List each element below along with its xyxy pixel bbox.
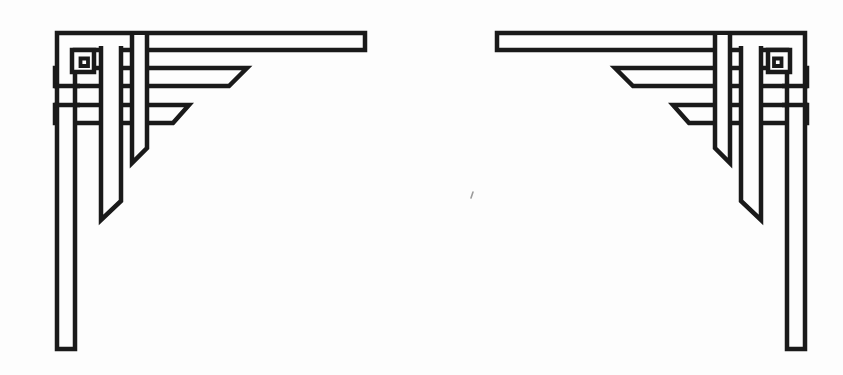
- ribbon-v3: [132, 35, 147, 163]
- ribbon-v2: [741, 46, 761, 220]
- page: [0, 0, 843, 375]
- ribbon-v3: [715, 35, 730, 163]
- knot-ring-hole: [774, 59, 782, 67]
- ornament-canvas: [0, 0, 843, 375]
- knot-ring-hole: [81, 59, 89, 67]
- ribbon-v2: [101, 46, 121, 220]
